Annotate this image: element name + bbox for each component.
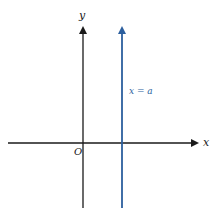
y-axis-label: y [78,9,86,22]
line-label: x = a [129,86,153,96]
coordinate-plane: y x O x = a [0,0,219,220]
origin-label: O [74,146,82,157]
x-axis-label: x [203,136,210,149]
diagram-canvas: y x O x = a [0,0,219,220]
